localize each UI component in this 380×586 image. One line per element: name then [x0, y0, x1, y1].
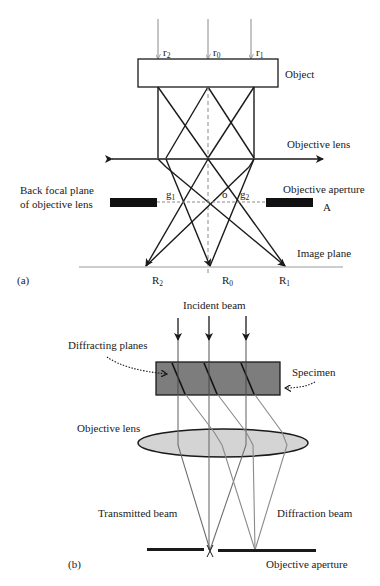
- ray-label-r0: r0: [213, 46, 221, 60]
- focus-cross: [207, 545, 213, 557]
- objective-aperture-right: [218, 549, 316, 552]
- objective-aperture-b-label: Objective aperture: [266, 558, 348, 570]
- panel-b: Incident beam Diffracting planes Specime…: [68, 299, 353, 571]
- panel-a-label: (a): [17, 274, 30, 287]
- ray-label-r1: r1: [256, 46, 264, 60]
- aperture-bar-right: [266, 198, 313, 207]
- aperture-bar-left: [110, 198, 157, 207]
- diffraction-beam-label: Diffraction beam: [277, 507, 353, 519]
- transmitted-beam-label: Transmitted beam: [98, 507, 178, 519]
- g1-label: g1: [166, 188, 176, 202]
- figure: r2 r0 r1 Object Objective lens: [0, 0, 380, 586]
- R1-label: R1: [279, 274, 290, 288]
- R2-label: R2: [152, 274, 163, 288]
- lens-to-image-rays: [146, 159, 285, 266]
- panel-a: r2 r0 r1 Object Objective lens: [17, 19, 365, 288]
- incident-rays: [158, 19, 251, 58]
- objective-lens-label: Objective lens: [287, 138, 350, 150]
- incident-beam-shafts: [178, 340, 246, 362]
- object-label: Object: [285, 68, 314, 80]
- specimen-box: [156, 362, 280, 395]
- diagram-canvas: r2 r0 r1 Object Objective lens: [0, 0, 380, 586]
- panel-b-label: (b): [68, 558, 81, 571]
- objective-aperture-label: Objective aperture: [283, 183, 365, 195]
- incident-beam-label: Incident beam: [183, 299, 246, 311]
- bfp-label-line1: Back focal plane: [20, 184, 94, 196]
- diffracting-planes-label: Diffracting planes: [68, 339, 148, 351]
- R0-label: R0: [222, 274, 233, 288]
- origin-label: o: [222, 188, 228, 200]
- specimen-label: Specimen: [292, 366, 336, 378]
- incident-beams: [178, 316, 246, 340]
- image-plane-label: Image plane: [297, 247, 351, 259]
- aperture-letter-a: A: [323, 201, 331, 213]
- bfp-label-line2: of objective lens: [20, 198, 93, 210]
- objective-lens-b-label: Objective lens: [77, 422, 140, 434]
- g2-label: g2: [240, 188, 250, 202]
- object-to-lens-rays: [158, 87, 254, 158]
- object-box: [138, 59, 278, 87]
- ray-label-r2: r2: [163, 46, 171, 60]
- specimen-pointer: [285, 382, 315, 388]
- objective-aperture-left: [147, 548, 204, 551]
